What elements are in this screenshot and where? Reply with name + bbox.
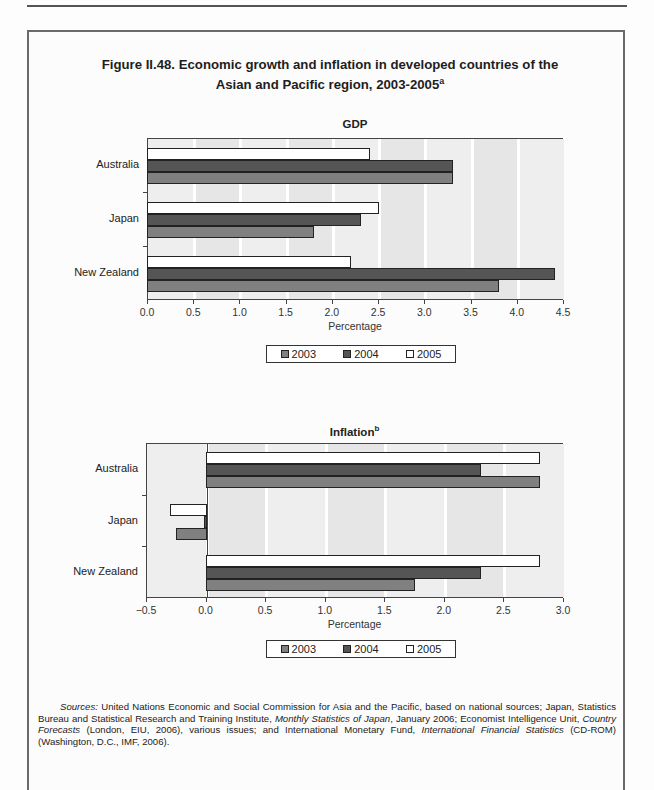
x-tick-label: 4.5 [543,306,583,318]
figure-title-line1: Figure II.48. Economic growth and inflat… [60,56,600,73]
bar-australia-2005 [206,452,541,464]
gridline [503,444,506,597]
grid-band [147,444,207,597]
plot-area [146,443,563,598]
figure-title-line2: Asian and Pacific region, 2003-2005a [60,73,600,93]
legend-swatch-icon [343,645,351,653]
page-header-rule [27,5,627,7]
x-tick-label: 2.0 [312,306,352,318]
x-axis-label: Percentage [295,320,415,332]
bar-japan-2003 [176,528,207,540]
x-tick-label: 1.5 [364,604,404,616]
bar-australia-2004 [147,160,453,172]
x-tick [384,598,385,602]
x-tick [517,300,518,304]
bar-japan-2004 [147,214,361,226]
legend: 200320042005 [266,345,456,363]
legend-swatch-icon [406,645,414,653]
legend-label: 2005 [417,348,441,360]
x-tick-label: −0.5 [126,604,166,616]
x-tick [444,598,445,602]
legend-item-2005: 2005 [406,348,441,360]
x-tick-label: 0.0 [127,306,167,318]
legend-label: 2004 [354,348,378,360]
category-label: Australia [29,158,139,170]
chart-title: Inflationb [295,424,415,438]
x-tick-label: 3.0 [543,604,583,616]
bar-japan-2005 [147,202,379,214]
x-tick [378,300,379,304]
x-tick-label: 3.5 [451,306,491,318]
bar-japan-2004 [204,516,206,528]
x-tick [332,300,333,304]
legend-swatch-icon [281,645,289,653]
x-tick-label: 1.0 [305,604,345,616]
x-tick-label: 1.0 [219,306,259,318]
x-tick-label: 2.5 [483,604,523,616]
chart-title: GDP [295,118,415,130]
legend-swatch-icon [343,350,351,358]
sources-label: Sources: [60,701,98,712]
bar-new-zealand-2004 [147,268,555,280]
bar-new-zealand-2003 [206,579,416,591]
x-axis-label: Percentage [295,618,415,630]
x-tick [265,598,266,602]
x-tick [563,300,564,304]
bar-new-zealand-2004 [206,567,481,579]
y-tick [142,546,146,547]
sources-note: Sources: United Nations Economic and Soc… [38,701,616,747]
legend-item-2005: 2005 [406,643,441,655]
x-tick-label: 2.0 [424,604,464,616]
x-tick-label: 3.0 [404,306,444,318]
x-tick-label: 0.5 [173,306,213,318]
x-tick [325,598,326,602]
x-tick-label: 1.5 [266,306,306,318]
figure-title: Figure II.48. Economic growth and inflat… [60,56,600,93]
legend-item-2003: 2003 [281,348,316,360]
legend-item-2004: 2004 [343,348,378,360]
category-label: Australia [28,462,138,474]
x-tick [424,300,425,304]
x-tick [286,300,287,304]
category-label: Japan [29,212,139,224]
bar-japan-2003 [147,226,314,238]
legend-label: 2005 [417,643,441,655]
category-label: New Zealand [29,266,139,278]
bar-australia-2003 [206,476,541,488]
bar-new-zealand-2005 [206,555,541,567]
x-tick [206,598,207,602]
x-tick-label: 0.5 [245,604,285,616]
y-tick [143,192,147,193]
x-tick-label: 4.0 [497,306,537,318]
footnote-marker-a: a [439,76,444,86]
chart-title-text: Inflation [330,426,375,438]
legend-label: 2004 [354,643,378,655]
x-tick [471,300,472,304]
bar-new-zealand-2003 [147,280,499,292]
bar-australia-2005 [147,148,370,160]
legend-item-2004: 2004 [343,643,378,655]
bar-australia-2004 [206,464,481,476]
bar-new-zealand-2005 [147,256,351,268]
x-tick [239,300,240,304]
x-tick-label: 2.5 [358,306,398,318]
y-tick [142,495,146,496]
grid-band [504,444,564,597]
x-tick [147,300,148,304]
legend: 200320042005 [266,640,456,658]
legend-label: 2003 [292,348,316,360]
category-label: New Zealand [28,565,138,577]
legend-swatch-icon [406,350,414,358]
footnote-marker-b: b [374,424,379,433]
legend-swatch-icon [281,350,289,358]
x-tick [146,598,147,602]
bar-australia-2003 [147,172,453,184]
x-tick-label: 0.0 [186,604,226,616]
plot-area [147,138,563,300]
legend-item-2003: 2003 [281,643,316,655]
x-tick [193,300,194,304]
category-label: Japan [28,514,138,526]
legend-label: 2003 [292,643,316,655]
y-tick [143,246,147,247]
bar-japan-2005 [170,504,207,516]
